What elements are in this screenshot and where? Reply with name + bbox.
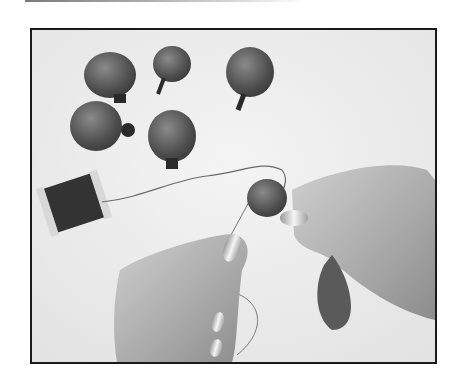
craft-photo xyxy=(32,30,435,362)
top-edge-strip xyxy=(25,0,305,2)
photo-frame xyxy=(30,28,437,364)
petal-on-thread xyxy=(247,179,287,217)
